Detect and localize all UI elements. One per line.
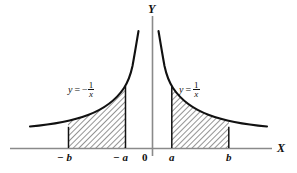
tick-label-a: a (169, 152, 175, 163)
curve-label-left-equals: = (74, 84, 80, 95)
curve-label-left-denominator: x (88, 89, 95, 99)
curve-label-right-denominator: x (193, 89, 200, 99)
tick-label-b: b (226, 152, 232, 163)
curve-label-left-fraction: 1 x (88, 81, 95, 99)
curve-label-left-lhs: y (68, 84, 72, 95)
hyperbola-integral-figure (0, 0, 297, 173)
curve-label-right-lhs: y (179, 84, 183, 95)
x-axis-label: X (277, 142, 285, 154)
curve-label-left: y=− 1 x (68, 82, 94, 100)
y-axis-label: Y (148, 3, 155, 15)
curve-label-left-numerator: 1 (88, 81, 95, 89)
tick-label-neg-b: − b (57, 152, 72, 163)
curve-label-right-fraction: 1 x (193, 81, 200, 99)
tick-label-neg-a: − a (113, 152, 128, 163)
left-shaded-area (30, 66, 133, 148)
curve-label-right-equals: = (185, 84, 191, 95)
curve-label-right: y= 1 x (179, 82, 200, 100)
curve-label-right-numerator: 1 (193, 81, 200, 89)
tick-label-origin: 0 (142, 152, 148, 163)
right-shaded-area (165, 66, 268, 148)
